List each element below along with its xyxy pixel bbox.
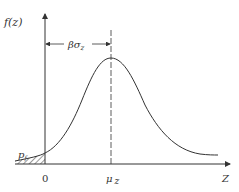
y-axis-label: f(z) — [3, 16, 22, 29]
x-axis-label: Z — [221, 173, 230, 184]
origin-label: 0 — [42, 173, 48, 184]
pdf-diagram: f(z) Z 0 μz βσz pf — [0, 0, 239, 192]
beta-sigma-label: βσz — [67, 39, 85, 52]
mean-label: μz — [106, 173, 120, 186]
